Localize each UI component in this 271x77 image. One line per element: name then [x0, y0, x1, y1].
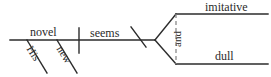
sentence-diagram: novel seems His new imitative dull and — [0, 0, 271, 77]
conjunction-label-and: and — [172, 31, 183, 47]
complement-label-imitative: imitative — [205, 1, 248, 13]
complement-label-dull: dull — [215, 50, 234, 62]
complement-slant-line — [131, 27, 146, 47]
subject-label: novel — [30, 26, 57, 38]
verb-label: seems — [90, 27, 119, 39]
